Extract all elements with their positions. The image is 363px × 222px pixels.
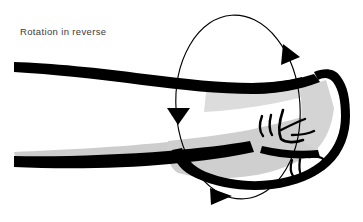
rotation-in-reverse-figure: Rotation in reverse xyxy=(0,0,363,222)
caption-label: Rotation in reverse xyxy=(20,26,106,38)
